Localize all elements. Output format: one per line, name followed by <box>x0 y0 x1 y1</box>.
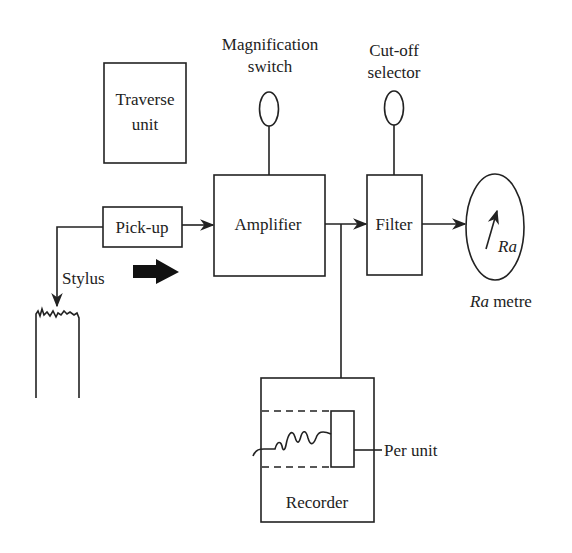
magnification-switch-label-line1: Magnification <box>222 35 319 54</box>
magnification-switch: Magnification switch <box>222 35 319 175</box>
stylus-label: Stylus <box>62 269 105 288</box>
recorder-block: Per unit Recorder <box>253 378 438 522</box>
amplifier-block: Amplifier <box>214 175 325 276</box>
magnification-switch-label-line2: switch <box>248 57 293 76</box>
cutoff-selector-label-line1: Cut-off <box>369 41 419 60</box>
cutoff-knob-icon <box>385 91 404 125</box>
stylus: Stylus <box>57 227 105 306</box>
amplifier-label: Amplifier <box>234 215 301 234</box>
ra-metre-caption: Ra metre <box>469 292 532 311</box>
recorder-label: Recorder <box>286 493 349 512</box>
cutoff-selector-label-line2: selector <box>368 63 421 82</box>
ra-dial-label: Ra <box>497 237 517 256</box>
traverse-direction-arrow-icon <box>133 259 179 284</box>
pickup-block: Pick-up <box>103 207 182 247</box>
traverse-unit-label-line1: Traverse <box>116 90 175 109</box>
filter-label: Filter <box>376 215 413 234</box>
cutoff-selector: Cut-off selector <box>368 41 421 175</box>
filter-block: Filter <box>367 175 422 275</box>
pen-unit-label: Per unit <box>384 441 438 460</box>
traverse-unit-label-line2: unit <box>132 115 159 134</box>
pickup-label: Pick-up <box>116 218 169 237</box>
traverse-unit-block: Traverse unit <box>104 63 186 163</box>
meter-needle-icon <box>486 211 497 249</box>
magnification-knob-icon <box>260 92 279 126</box>
ra-meter-dial-icon <box>466 174 524 280</box>
workpiece-surface <box>36 309 79 398</box>
pen-unit-icon <box>331 411 354 467</box>
diagram-canvas: Traverse unit Magnification switch Cut-o… <box>0 0 572 553</box>
ra-metre: Ra Ra metre <box>466 174 532 311</box>
